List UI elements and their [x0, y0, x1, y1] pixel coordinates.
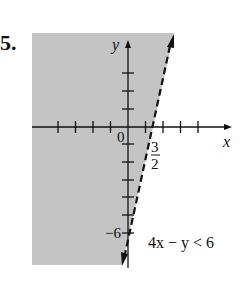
- y-axis-label: y: [110, 36, 120, 54]
- inequality-label: 4x − y < 6: [148, 234, 214, 252]
- fraction-numerator: 3: [151, 139, 159, 155]
- x-axis-label: x: [222, 133, 230, 150]
- y-intercept-label: −6: [105, 225, 121, 241]
- fraction-denominator: 2: [151, 156, 159, 172]
- origin-label: 0: [117, 129, 125, 145]
- x-intercept-label: 3 2: [151, 139, 160, 172]
- inequality-graph: y x 0 3 2 −6 4x − y < 6: [0, 0, 250, 283]
